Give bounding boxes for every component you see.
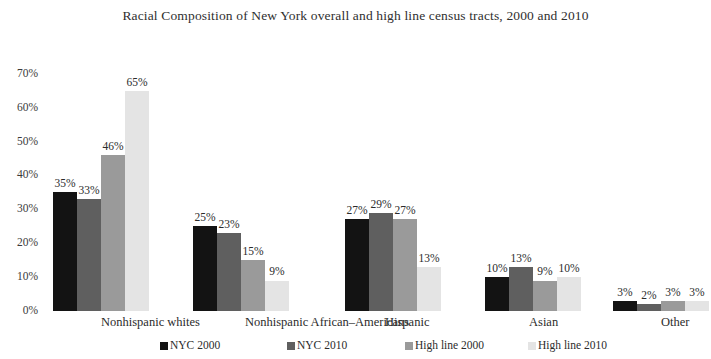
bar-value-label: 27% — [389, 205, 421, 217]
legend-swatch-icon — [160, 342, 168, 350]
bar — [369, 213, 393, 311]
bar — [485, 277, 509, 311]
y-axis-tick-40: 40% — [2, 169, 38, 181]
y-axis-tick-60: 60% — [2, 102, 38, 114]
legend-item[interactable]: NYC 2000 — [160, 340, 220, 352]
bar — [53, 192, 77, 311]
legend-label: NYC 2010 — [297, 340, 347, 352]
bar-value-label: 15% — [237, 246, 269, 258]
bar — [265, 281, 289, 312]
y-axis-tick-30: 30% — [2, 203, 38, 215]
bar-value-label: 9% — [261, 266, 293, 278]
y-axis-tick-20: 20% — [2, 237, 38, 249]
bar — [193, 226, 217, 311]
bar — [613, 301, 637, 311]
bar — [345, 219, 369, 311]
bar — [393, 219, 417, 311]
y-axis-tick-50: 50% — [2, 136, 38, 148]
y-axis-tick-0: 0% — [2, 305, 38, 317]
bar — [533, 281, 557, 312]
legend-label: High line 2010 — [538, 340, 607, 352]
legend-label: NYC 2000 — [170, 340, 220, 352]
bar-value-label: 10% — [553, 263, 585, 275]
legend-swatch-icon — [287, 342, 295, 350]
y-axis-tick-70: 70% — [2, 68, 38, 80]
legend-swatch-icon — [405, 342, 413, 350]
bar-value-label: 65% — [121, 77, 153, 89]
chart-plot-area: 0%10%20%30%40%50%60%70% 35%33%46%65%25%2… — [0, 0, 711, 359]
bar — [217, 233, 241, 311]
bar — [637, 304, 661, 311]
bar — [125, 91, 149, 311]
bar — [101, 155, 125, 311]
bar-value-label: 3% — [681, 287, 711, 299]
bar — [557, 277, 581, 311]
legend-label: High line 2000 — [415, 340, 484, 352]
bar-value-label: 13% — [505, 253, 537, 265]
bar-value-label: 13% — [413, 253, 445, 265]
y-axis-tick-10: 10% — [2, 271, 38, 283]
bar — [685, 301, 709, 311]
bar-value-label: 23% — [213, 219, 245, 231]
bar — [417, 267, 441, 311]
legend-swatch-icon — [528, 342, 536, 350]
legend-item[interactable]: High line 2010 — [528, 340, 607, 352]
bar — [77, 199, 101, 311]
chart-legend: NYC 2000NYC 2010High line 2000High line … — [0, 340, 711, 358]
legend-item[interactable]: NYC 2010 — [287, 340, 347, 352]
legend-item[interactable]: High line 2000 — [405, 340, 484, 352]
bar — [661, 301, 685, 311]
